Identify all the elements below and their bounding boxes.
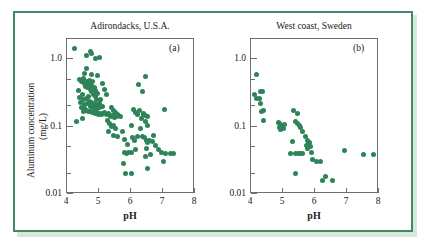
- x-tick-label-panel-b-8: 8: [376, 196, 381, 206]
- data-point: [330, 178, 335, 183]
- x-tick-label-panel-a-4: 4: [64, 196, 69, 206]
- y-axis-title: Aluminum concentration: [26, 83, 36, 178]
- y-minor-tick-panel-a-2: [67, 38, 71, 39]
- data-point: [371, 152, 376, 157]
- data-point: [133, 147, 138, 152]
- data-point: [98, 97, 103, 102]
- data-point: [90, 79, 95, 84]
- y-minor-tick-panel-b-0.02: [251, 173, 255, 174]
- data-point: [290, 139, 295, 144]
- data-point: [89, 72, 94, 77]
- data-point: [74, 119, 79, 124]
- x-tick-panel-b-8: [378, 188, 379, 193]
- y-tick-panel-b-0.1: [251, 126, 257, 127]
- panel-title-panel-b: West coast, Sweden: [276, 21, 351, 31]
- y-tick-label-panel-b-0.01: 0.01: [220, 188, 246, 198]
- x-tick-label-panel-b-6: 6: [312, 196, 317, 206]
- data-point: [122, 137, 127, 142]
- data-point: [300, 151, 305, 156]
- x-tick-label-panel-a-5: 5: [96, 196, 101, 206]
- data-point: [104, 92, 109, 97]
- data-point: [145, 123, 150, 128]
- data-point: [145, 166, 150, 171]
- data-point: [132, 138, 137, 143]
- axes-box-panel-b: (b): [250, 38, 378, 193]
- y-axis-title-line1: Aluminum concentration: [26, 83, 36, 178]
- x-tick-label-panel-a-8: 8: [192, 196, 197, 206]
- y-tick-label-panel-a-0.01: 0.01: [36, 188, 62, 198]
- x-tick-label-panel-b-7: 7: [344, 196, 349, 206]
- data-point: [106, 129, 111, 134]
- data-point: [72, 46, 77, 51]
- data-point: [100, 104, 105, 109]
- data-point: [171, 151, 176, 156]
- data-point: [254, 72, 259, 77]
- data-point: [123, 171, 128, 176]
- axes-box-panel-a: (a): [66, 38, 194, 193]
- y-tick-panel-a-0.01: [67, 193, 73, 194]
- y-tick-label-panel-a-0.1: 0.1: [36, 121, 62, 131]
- data-point: [293, 171, 298, 176]
- data-point: [144, 146, 149, 151]
- data-point: [161, 159, 166, 164]
- data-point: [82, 71, 87, 76]
- data-point: [148, 152, 153, 157]
- x-tick-label-panel-b-4: 4: [248, 196, 253, 206]
- x-tick-panel-a-8: [194, 188, 195, 193]
- data-point: [135, 134, 140, 139]
- y-minor-tick-panel-a-0.02: [67, 173, 71, 174]
- y-tick-panel-b-1: [251, 58, 257, 59]
- data-point: [97, 55, 102, 60]
- x-tick-panel-a-5: [98, 188, 99, 193]
- data-point: [111, 123, 116, 128]
- y-minor-tick-panel-b-0.5: [251, 79, 255, 80]
- y-minor-tick-panel-b-2: [251, 38, 255, 39]
- data-point: [361, 152, 366, 157]
- x-tick-panel-b-7: [346, 188, 347, 193]
- y-minor-tick-panel-a-0.05: [67, 146, 71, 147]
- points-layer-panel-b: [251, 39, 377, 192]
- y-tick-label-panel-b-1: 1.0: [220, 53, 246, 63]
- data-point: [162, 107, 167, 112]
- x-tick-panel-a-7: [162, 188, 163, 193]
- data-point: [318, 159, 323, 164]
- data-point: [309, 150, 314, 155]
- y-tick-panel-b-0.01: [251, 193, 257, 194]
- y-tick-panel-a-1: [67, 58, 73, 59]
- figure-root: Aluminum concentration (mg/L) Adirondack…: [0, 0, 431, 247]
- data-point: [282, 122, 287, 127]
- x-tick-panel-b-5: [282, 188, 283, 193]
- x-axis-title-panel-b: pH: [307, 210, 320, 221]
- points-layer-panel-a: [67, 39, 193, 192]
- data-point: [121, 161, 126, 166]
- data-point: [304, 143, 309, 148]
- data-point: [122, 150, 127, 155]
- data-point: [120, 129, 125, 134]
- y-tick-panel-a-0.1: [67, 126, 73, 127]
- y-tick-label-panel-b-0.1: 0.1: [220, 121, 246, 131]
- data-point: [151, 133, 156, 138]
- data-point: [295, 111, 300, 116]
- data-point: [143, 154, 148, 159]
- data-point: [260, 89, 265, 94]
- data-point: [138, 126, 143, 131]
- data-point: [288, 151, 293, 156]
- y-minor-tick-panel-b-0.05: [251, 146, 255, 147]
- y-minor-tick-panel-a-0.2: [67, 105, 71, 106]
- data-point: [261, 118, 266, 123]
- data-point: [102, 87, 107, 92]
- data-point: [323, 174, 328, 179]
- x-tick-label-panel-b-5: 5: [280, 196, 285, 206]
- y-minor-tick-panel-a-0.5: [67, 79, 71, 80]
- x-tick-panel-a-6: [130, 188, 131, 193]
- x-tick-label-panel-a-6: 6: [128, 196, 133, 206]
- data-point: [95, 91, 100, 96]
- x-axis-title-panel-a: pH: [123, 210, 136, 221]
- x-tick-panel-b-6: [314, 188, 315, 193]
- y-tick-label-panel-a-1: 1.0: [36, 53, 62, 63]
- x-tick-label-panel-a-7: 7: [160, 196, 165, 206]
- panel-title-panel-a: Adirondacks, U.S.A.: [90, 21, 169, 31]
- data-point: [136, 82, 141, 87]
- data-point: [125, 142, 130, 147]
- data-point: [140, 89, 145, 94]
